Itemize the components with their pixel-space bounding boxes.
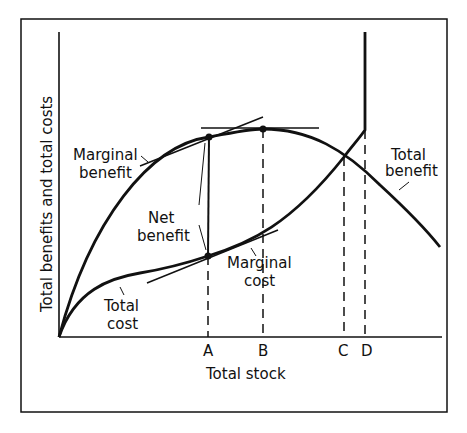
label-marginal-cost-1: Marginal — [227, 254, 292, 272]
total-cost-curve — [59, 32, 365, 337]
point-b-peak — [260, 126, 267, 133]
point-a-benefit — [206, 134, 213, 141]
leader-marginal-benefit — [141, 156, 148, 162]
leader-net-benefit-top — [199, 143, 205, 205]
x-axis-label: Total stock — [205, 365, 286, 383]
label-marginal-benefit-1: Marginal — [73, 146, 138, 164]
label-marginal-cost-2: cost — [244, 272, 275, 290]
leader-total-cost — [120, 287, 124, 295]
marginal-benefit-tangent — [140, 117, 263, 166]
label-total-cost-1: Total — [103, 297, 139, 315]
label-net-benefit-1: Net — [148, 209, 174, 227]
tick-c: C — [338, 342, 348, 360]
y-axis-label: Total benefits and total costs — [38, 96, 56, 313]
net-benefit-line — [208, 137, 209, 256]
label-marginal-benefit-2: benefit — [79, 164, 132, 182]
leader-total-benefit — [399, 182, 409, 190]
tick-b: B — [258, 342, 268, 360]
tick-a: A — [203, 342, 214, 360]
point-a-cost — [205, 253, 212, 260]
label-net-benefit-2: benefit — [137, 227, 190, 245]
leader-net-benefit-bottom — [199, 225, 206, 250]
figure-frame — [21, 19, 447, 412]
label-total-benefit-2: benefit — [385, 162, 438, 180]
bioeconomic-diagram: Marginal benefit Net benefit Marginal co… — [0, 0, 467, 433]
label-total-cost-2: cost — [107, 315, 138, 333]
tick-d: D — [361, 342, 373, 360]
